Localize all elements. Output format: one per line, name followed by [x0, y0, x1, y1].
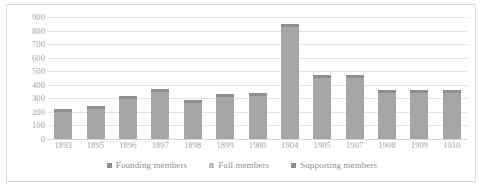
bar-group[interactable]: [378, 17, 396, 139]
bar-top-segment: [410, 90, 428, 93]
x-axis: 1893189518961897189818991900190419051907…: [47, 141, 468, 155]
bar[interactable]: [184, 100, 202, 139]
y-axis-tick-label: 700: [32, 40, 45, 49]
bar[interactable]: [249, 93, 267, 139]
x-axis-tick-label: 1899: [216, 141, 233, 150]
bar-top-segment: [54, 109, 72, 112]
bar-group[interactable]: [54, 17, 72, 139]
y-axis-tick-label: 300: [32, 94, 45, 103]
x-axis-tick-label: 1893: [54, 141, 71, 150]
bar[interactable]: [87, 106, 105, 139]
y-axis-tick-label: 500: [32, 67, 45, 76]
bar-group[interactable]: [281, 17, 299, 139]
y-axis: 0100200300400500600700800900: [13, 17, 45, 139]
plot-area: [47, 17, 468, 139]
bar-top-segment: [184, 100, 202, 103]
x-axis-tick-label: 1905: [314, 141, 331, 150]
bar[interactable]: [151, 89, 169, 139]
x-axis-tick-label: 1900: [249, 141, 266, 150]
bar-group[interactable]: [249, 17, 267, 139]
y-axis-tick-label: 600: [32, 53, 45, 62]
x-axis-tick-label: 1895: [87, 141, 104, 150]
y-axis-tick-label: 400: [32, 81, 45, 90]
bar-group[interactable]: [346, 17, 364, 139]
bar[interactable]: [443, 90, 461, 139]
bar-group[interactable]: [313, 17, 331, 139]
legend-label: Supporting members: [300, 161, 377, 170]
bar-top-segment: [443, 90, 461, 93]
bar[interactable]: [410, 90, 428, 139]
bar[interactable]: [281, 24, 299, 139]
y-axis-tick-label: 100: [32, 121, 45, 130]
bar-top-segment: [216, 94, 234, 97]
legend-label: Full members: [218, 161, 269, 170]
bar-top-segment: [281, 24, 299, 27]
legend-item[interactable]: Full members: [209, 161, 269, 170]
legend-swatch-icon: [291, 163, 296, 168]
bar-group[interactable]: [410, 17, 428, 139]
legend-item[interactable]: Founding members: [107, 161, 187, 170]
bar-top-segment: [87, 106, 105, 109]
x-axis-tick-label: 1909: [411, 141, 428, 150]
bar-group[interactable]: [443, 17, 461, 139]
x-axis-tick-label: 1904: [281, 141, 298, 150]
chart-legend: Founding membersFull membersSupporting m…: [7, 161, 477, 170]
y-axis-tick-label: 800: [32, 26, 45, 35]
bar[interactable]: [119, 96, 137, 139]
x-axis-tick-label: 1898: [184, 141, 201, 150]
chart-container: 0100200300400500600700800900 18931895189…: [6, 4, 476, 182]
bar-top-segment: [119, 96, 137, 99]
bar-top-segment: [151, 89, 169, 92]
legend-swatch-icon: [209, 163, 214, 168]
bar-group[interactable]: [87, 17, 105, 139]
bar[interactable]: [378, 90, 396, 139]
bar-group[interactable]: [151, 17, 169, 139]
y-axis-tick-label: 200: [32, 108, 45, 117]
x-axis-tick-label: 1896: [119, 141, 136, 150]
bar-top-segment: [346, 75, 364, 78]
x-axis-tick-label: 1910: [443, 141, 460, 150]
bar[interactable]: [346, 75, 364, 139]
legend-label: Founding members: [116, 161, 187, 170]
bar-top-segment: [378, 90, 396, 93]
x-axis-tick-label: 1907: [346, 141, 363, 150]
legend-item[interactable]: Supporting members: [291, 161, 377, 170]
x-axis-tick-label: 1897: [152, 141, 169, 150]
y-axis-tick-label: 900: [32, 13, 45, 22]
bar[interactable]: [313, 75, 331, 139]
bar[interactable]: [216, 94, 234, 139]
bar-top-segment: [313, 75, 331, 78]
bar-group[interactable]: [119, 17, 137, 139]
bar-group[interactable]: [216, 17, 234, 139]
y-axis-tick-label: 0: [41, 135, 45, 144]
bar[interactable]: [54, 109, 72, 140]
bars: [47, 17, 468, 139]
x-axis-tick-label: 1908: [378, 141, 395, 150]
bar-top-segment: [249, 93, 267, 96]
legend-swatch-icon: [107, 163, 112, 168]
bar-group[interactable]: [184, 17, 202, 139]
